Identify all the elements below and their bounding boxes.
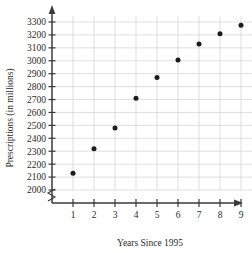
y-axis-tick-label: 2400 (27, 134, 46, 144)
y-axis-tick-label: 2200 (27, 160, 46, 170)
y-axis-arrow-icon (49, 5, 56, 14)
y-axis-tick-label: 2500 (27, 121, 46, 131)
y-axis-tick-label: 2600 (27, 108, 46, 118)
y-axis-tick-label: 3200 (27, 30, 46, 40)
x-axis-title: Years Since 1995 (117, 238, 183, 248)
x-axis-tick-label: 1 (71, 210, 76, 220)
y-axis-tick-label: 2900 (27, 69, 46, 79)
data-point (218, 31, 223, 36)
y-axis-tick-label: 3000 (27, 56, 46, 66)
x-axis-tick-label: 5 (155, 210, 160, 220)
horizontal-gridlines (52, 22, 252, 190)
data-point (176, 58, 181, 63)
x-axis-tick-label: 2 (92, 210, 97, 220)
x-axis-tick-label: 9 (239, 210, 244, 220)
y-axis-tick-label: 3300 (27, 17, 46, 27)
x-axis-tick-labels: 123456789 (71, 210, 244, 220)
x-axis-tick-label: 8 (218, 210, 223, 220)
y-axis-tick-labels: 2000210022002300240025002600270028002900… (27, 17, 46, 195)
x-axis-tick-label: 6 (176, 210, 181, 220)
data-point (197, 41, 202, 46)
data-point (113, 125, 118, 130)
chart-canvas: 2000210022002300240025002600270028002900… (0, 0, 252, 253)
x-axis-tick-label: 3 (113, 210, 118, 220)
axis-break-icon (48, 189, 55, 201)
x-axis-arrow-icon (234, 200, 243, 207)
data-point (134, 96, 139, 101)
y-axis-tick-label: 2100 (27, 172, 46, 182)
y-axis-tick-label: 2800 (27, 82, 46, 92)
y-axis-tick-label: 3100 (27, 43, 46, 53)
y-axis-tick-label: 2700 (27, 95, 46, 105)
data-point (71, 171, 76, 176)
y-axis (48, 5, 56, 203)
y-axis-title: Prescriptions (in millions) (5, 68, 16, 167)
scatter-chart: 2000210022002300240025002600270028002900… (0, 0, 252, 253)
data-point (239, 23, 244, 28)
data-point (92, 146, 97, 151)
x-axis (52, 199, 243, 207)
data-point (155, 75, 160, 80)
y-axis-tick-label: 2300 (27, 147, 46, 157)
x-axis-tick-label: 4 (134, 210, 139, 220)
x-axis-tick-label: 7 (197, 210, 202, 220)
y-axis-tick-label: 2000 (27, 185, 46, 195)
